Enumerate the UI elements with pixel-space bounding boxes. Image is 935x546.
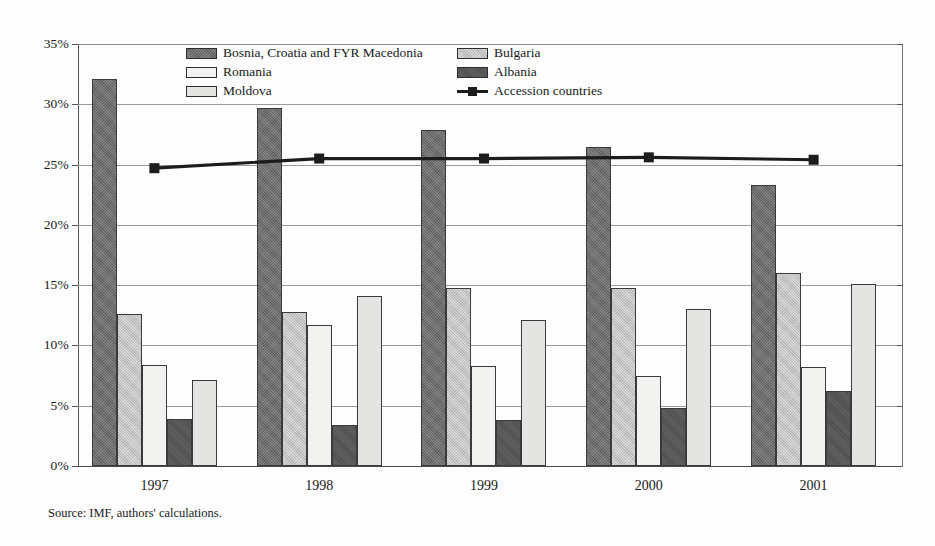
y-tick-label: 10% — [44, 337, 69, 353]
legend-swatch-bulgaria — [457, 48, 488, 59]
legend-column-left: Bosnia, Croatia and FYR MacedoniaRomania… — [186, 44, 423, 101]
line-marker — [314, 154, 324, 164]
line-marker — [644, 152, 654, 162]
right-axis-line — [902, 44, 903, 467]
legend-label: Romania — [223, 65, 272, 79]
figure-container: 0%5%10%15%20%25%30%35% 19971998199920002… — [0, 0, 935, 546]
y-tick-mark — [72, 406, 78, 407]
y-tick-label: 0% — [51, 458, 69, 474]
source-note: Source: IMF, authors' calculations. — [48, 506, 222, 521]
y-tick-mark — [897, 345, 903, 346]
y-tick-mark — [72, 285, 78, 286]
y-tick-mark — [897, 165, 903, 166]
legend-item-accession-countries[interactable]: Accession countries — [457, 82, 602, 100]
legend-label: Albania — [494, 65, 537, 79]
legend-item-bulgaria[interactable]: Bulgaria — [457, 44, 602, 62]
y-tick-label: 30% — [44, 96, 69, 112]
legend-item-moldova[interactable]: Moldova — [186, 82, 423, 100]
y-tick-mark — [72, 165, 78, 166]
y-tick-mark — [72, 345, 78, 346]
y-tick-mark — [897, 225, 903, 226]
legend-swatch-albania — [457, 67, 488, 78]
legend-line-marker-icon — [457, 86, 488, 97]
legend-label: Bosnia, Croatia and FYR Macedonia — [223, 46, 423, 60]
y-tick-mark — [897, 406, 903, 407]
legend-swatch-moldova — [186, 86, 217, 97]
y-tick-mark — [897, 44, 903, 45]
x-tick-label: 2001 — [800, 478, 828, 494]
y-tick-label: 20% — [44, 217, 69, 233]
plot-area — [78, 44, 902, 466]
y-tick-mark — [72, 104, 78, 105]
legend-swatch-romania — [186, 67, 217, 78]
x-tick-label: 1998 — [305, 478, 333, 494]
chart-legend: Bosnia, Croatia and FYR MacedoniaRomania… — [186, 44, 606, 102]
line-marker — [149, 163, 159, 173]
legend-swatch-bosnia-croatia-fyr-macedonia — [186, 48, 217, 59]
x-tick-label: 1999 — [470, 478, 498, 494]
gridline-0pct — [78, 466, 902, 467]
y-tick-mark — [72, 466, 78, 467]
x-tick-label: 2000 — [635, 478, 663, 494]
y-axis-labels: 0%5%10%15%20%25%30%35% — [0, 0, 69, 546]
y-tick-mark — [897, 285, 903, 286]
legend-item-bosnia-croatia-fyr-macedonia[interactable]: Bosnia, Croatia and FYR Macedonia — [186, 44, 423, 62]
legend-item-albania[interactable]: Albania — [457, 63, 602, 81]
y-tick-mark — [897, 104, 903, 105]
legend-label: Bulgaria — [494, 46, 541, 60]
y-tick-label: 35% — [44, 36, 69, 52]
y-tick-mark — [897, 466, 903, 467]
accession-countries-line-series — [78, 44, 902, 466]
legend-label: Accession countries — [494, 84, 602, 98]
y-tick-label: 25% — [44, 157, 69, 173]
legend-item-romania[interactable]: Romania — [186, 63, 423, 81]
y-tick-label: 15% — [44, 277, 69, 293]
y-tick-mark — [72, 44, 78, 45]
legend-label: Moldova — [223, 84, 272, 98]
x-tick-label: 1997 — [140, 478, 168, 494]
line-marker — [479, 154, 489, 164]
x-axis-labels: 19971998199920002001 — [78, 478, 902, 502]
y-tick-mark — [72, 225, 78, 226]
legend-column-right: BulgariaAlbaniaAccession countries — [457, 44, 602, 101]
line-marker — [809, 155, 819, 165]
y-tick-label: 5% — [51, 398, 69, 414]
